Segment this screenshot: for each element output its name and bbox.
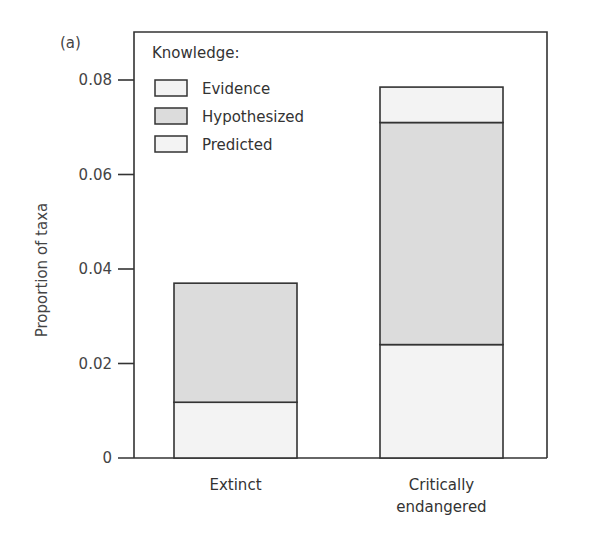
y-axis: 00.020.040.060.08 bbox=[79, 71, 134, 467]
y-axis-title: Proportion of taxa bbox=[33, 203, 51, 338]
x-category-label: endangered bbox=[396, 498, 486, 516]
legend-title: Knowledge: bbox=[152, 44, 240, 62]
bar-segment-evidence bbox=[380, 87, 503, 122]
y-tick-label: 0.02 bbox=[79, 355, 112, 373]
x-axis-categories: ExtinctCriticallyendangered bbox=[209, 476, 486, 516]
panel-label: (a) bbox=[60, 34, 81, 52]
y-tick-label: 0.08 bbox=[79, 71, 112, 89]
x-category-label: Extinct bbox=[209, 476, 261, 494]
bar-segment-hypothesized bbox=[380, 123, 503, 345]
stacked-bar-chart: (a) 00.020.040.060.08 Proportion of taxa… bbox=[0, 0, 605, 550]
legend: Knowledge:EvidenceHypothesizedPredicted bbox=[152, 44, 304, 154]
legend-swatch bbox=[155, 80, 187, 96]
legend-label: Evidence bbox=[202, 80, 270, 98]
bar-segment-hypothesized bbox=[174, 283, 297, 402]
bar-segment-predicted bbox=[380, 345, 503, 458]
legend-swatch bbox=[155, 108, 187, 124]
legend-label: Predicted bbox=[202, 136, 272, 154]
y-tick-label: 0.06 bbox=[79, 166, 112, 184]
y-tick-label: 0.04 bbox=[79, 260, 112, 278]
bar-segment-predicted bbox=[174, 402, 297, 458]
y-tick-label: 0 bbox=[102, 449, 112, 467]
legend-label: Hypothesized bbox=[202, 108, 304, 126]
x-category-label: Critically bbox=[409, 476, 475, 494]
legend-swatch bbox=[155, 136, 187, 152]
